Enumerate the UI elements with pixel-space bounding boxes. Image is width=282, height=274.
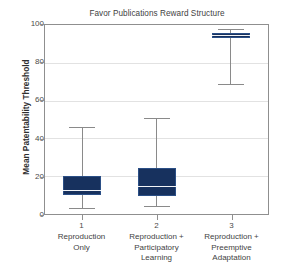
box-rect [63, 176, 101, 195]
x-tick-label: 3 [184, 221, 280, 230]
x-tick-mark [82, 215, 83, 220]
median-line [138, 186, 176, 187]
box-rect [138, 168, 176, 196]
boxplot-figure: Favor Publications Reward Structure Mean… [0, 0, 282, 274]
chart-title: Favor Publications Reward Structure [44, 9, 270, 18]
plot-area [44, 24, 269, 215]
gridline [45, 63, 268, 64]
median-line [212, 35, 250, 36]
whisker-cap-upper [144, 118, 170, 119]
whisker-cap-upper [69, 127, 95, 128]
x-category-label-line: Adaptation [184, 253, 280, 264]
y-axis-title: Mean Patentability Threshold [21, 22, 31, 212]
whisker-cap-lower [69, 208, 95, 209]
whisker-line [82, 127, 83, 208]
whisker-cap-lower [218, 84, 244, 85]
x-category-label: Reproduction +PreemptiveAdaptation [184, 232, 280, 264]
gridline [45, 101, 268, 102]
whisker-cap-lower [144, 206, 170, 207]
x-tick-mark [232, 215, 233, 220]
x-category-label-line: Reproduction + [184, 232, 280, 243]
x-category-label-line: Preemptive [184, 243, 280, 254]
whisker-cap-upper [218, 29, 244, 30]
x-tick-mark [157, 215, 158, 220]
median-line [63, 190, 101, 191]
y-tick-mark [40, 215, 44, 216]
